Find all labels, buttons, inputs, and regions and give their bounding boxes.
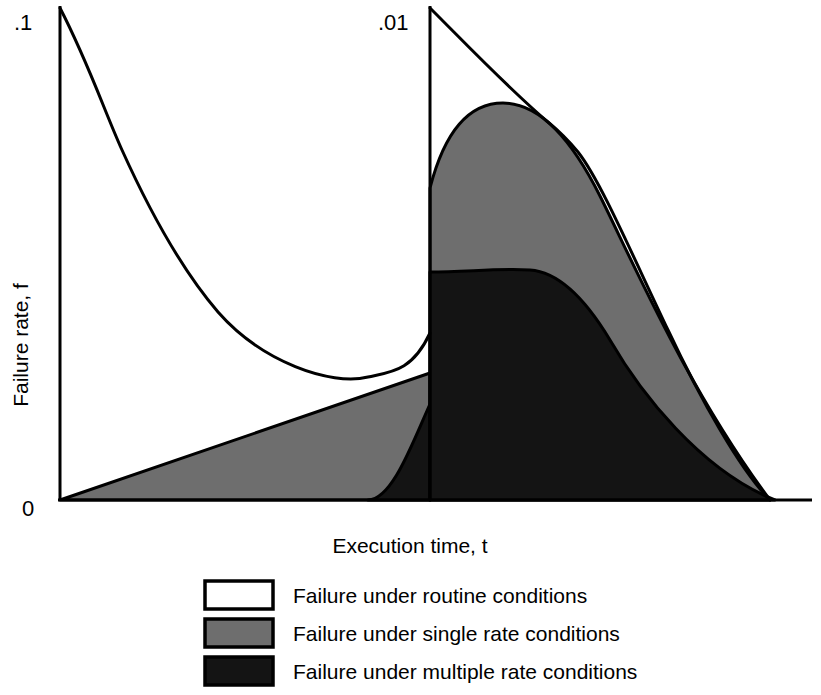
- y-axis-title: Failure rate, f: [9, 283, 32, 407]
- legend: Failure under routine conditions Failure…: [205, 581, 637, 685]
- y-tick-label-right-top: .01: [378, 10, 409, 35]
- failure-rate-chart: .1 .01 0 Failure rate, f Execution time,…: [0, 0, 821, 695]
- legend-label-single-rate: Failure under single rate conditions: [293, 622, 620, 645]
- legend-label-multiple-rate: Failure under multiple rate conditions: [293, 660, 637, 683]
- legend-item-routine: Failure under routine conditions: [205, 581, 587, 609]
- legend-swatch-routine: [205, 581, 273, 609]
- y-tick-label-origin: 0: [22, 496, 34, 521]
- chart-figure: .1 .01 0 Failure rate, f Execution time,…: [0, 0, 821, 695]
- legend-item-multiple-rate: Failure under multiple rate conditions: [205, 657, 637, 685]
- legend-item-single-rate: Failure under single rate conditions: [205, 619, 620, 647]
- legend-swatch-single-rate: [205, 619, 273, 647]
- x-axis-title: Execution time, t: [332, 534, 487, 557]
- legend-label-routine: Failure under routine conditions: [293, 584, 587, 607]
- y-tick-label-left-top: .1: [14, 10, 32, 35]
- legend-swatch-multiple-rate: [205, 657, 273, 685]
